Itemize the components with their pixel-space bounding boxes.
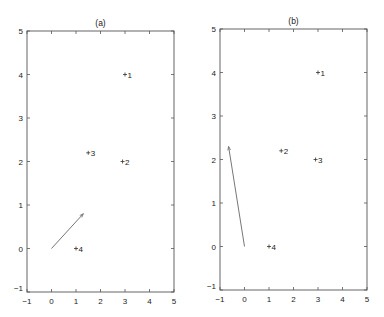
point-label: 1 — [128, 71, 133, 80]
x-tick-label: 0 — [242, 295, 247, 304]
figure: (a)−1012345−10123451234(b)−1012345−10123… — [0, 0, 384, 317]
y-tick-label: 1 — [212, 199, 217, 208]
point-label: 3 — [91, 149, 96, 158]
x-tick-label: 4 — [147, 297, 152, 306]
x-tick-label: 3 — [316, 295, 321, 304]
chart-title: (a) — [95, 18, 106, 28]
point-label: 4 — [272, 243, 277, 252]
x-tick-label: 5 — [365, 295, 370, 304]
x-tick-label: −1 — [215, 295, 225, 304]
axes-box — [27, 31, 174, 292]
y-tick-label: −1 — [14, 284, 24, 293]
y-tick-label: 2 — [19, 158, 24, 167]
point-label: 4 — [79, 245, 84, 254]
y-tick-label: 5 — [212, 25, 217, 34]
x-tick-label: 1 — [267, 295, 272, 304]
point-label: 2 — [125, 158, 130, 167]
x-tick-label: 4 — [340, 295, 345, 304]
chart-title: (b) — [288, 16, 299, 26]
y-tick-label: 4 — [212, 69, 217, 78]
x-tick-label: 1 — [74, 297, 79, 306]
y-tick-label: 1 — [19, 201, 24, 210]
point-label: 2 — [284, 147, 289, 156]
x-tick-label: 3 — [123, 297, 128, 306]
y-tick-label: −1 — [207, 282, 217, 291]
panel-a: (a)−1012345−10123451234 — [14, 18, 177, 306]
y-tick-label: 2 — [212, 156, 217, 165]
panel-b: (b)−1012345−10123451234 — [207, 16, 370, 304]
x-tick-label: 0 — [49, 297, 54, 306]
y-tick-label: 0 — [19, 245, 24, 254]
axes-box — [220, 29, 367, 290]
x-tick-label: 5 — [172, 297, 177, 306]
y-tick-label: 4 — [19, 71, 24, 80]
x-tick-label: 2 — [98, 297, 103, 306]
vector-arrow — [52, 214, 84, 249]
point-label: 3 — [318, 156, 323, 165]
point-label: 1 — [321, 69, 326, 78]
x-tick-label: 2 — [291, 295, 296, 304]
y-tick-label: 5 — [19, 27, 24, 36]
y-tick-label: 0 — [212, 243, 217, 252]
y-tick-label: 3 — [19, 114, 24, 123]
vector-arrow — [229, 146, 245, 246]
x-tick-label: −1 — [22, 297, 32, 306]
y-tick-label: 3 — [212, 112, 217, 121]
